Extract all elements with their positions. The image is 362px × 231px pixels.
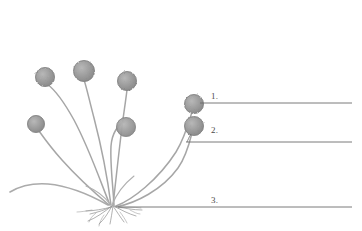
sporangium-b — [74, 61, 95, 82]
sporangium-f — [185, 95, 204, 114]
sporangiophore-group — [10, 80, 192, 207]
fungus-diagram — [0, 0, 362, 231]
sporangium-a — [36, 68, 55, 87]
diagram-page: 1. 2. 3. — [0, 0, 362, 231]
label-number-3: 3. — [211, 196, 218, 205]
label-number-1: 1. — [211, 92, 218, 101]
sporangia-group — [28, 61, 204, 137]
rhizoid-group — [77, 206, 142, 226]
sporangium-c — [28, 116, 45, 133]
sporangium-g — [185, 117, 204, 136]
stalk-left-sweep — [10, 184, 108, 205]
stalk-to-sporangium-d — [113, 89, 127, 205]
label-number-2: 2. — [211, 126, 218, 135]
sporangium-d — [118, 72, 137, 91]
stalk-to-sporangium-c — [39, 131, 109, 205]
sporangium-e — [117, 118, 136, 137]
